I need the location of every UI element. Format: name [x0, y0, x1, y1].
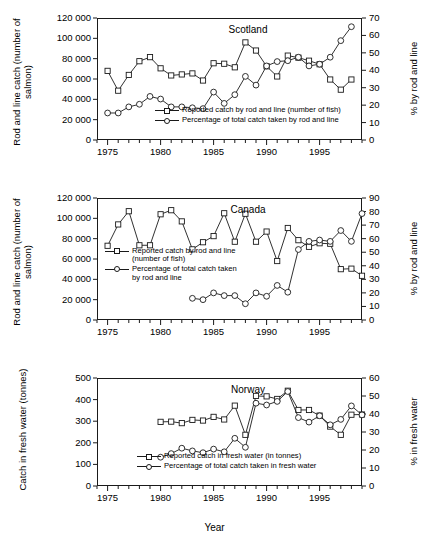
data-point	[126, 72, 131, 77]
data-point	[306, 419, 312, 425]
data-point	[190, 417, 195, 422]
data-point	[264, 63, 270, 69]
data-point	[137, 101, 143, 107]
ytick-right: 40	[369, 64, 399, 75]
legend-label: Reported catch by rod and line (number o…	[182, 106, 341, 115]
xtick-label: 1995	[300, 326, 340, 337]
ytick-left: 120 000	[31, 192, 91, 203]
data-point	[158, 66, 163, 71]
ytick-left: 100 000	[31, 32, 91, 43]
data-point	[190, 71, 195, 76]
data-point	[211, 234, 216, 239]
data-point	[179, 421, 184, 426]
data-point	[105, 68, 110, 73]
data-point	[306, 244, 311, 249]
ytick-right: 40	[369, 260, 399, 271]
data-point	[338, 267, 343, 272]
ytick-right: 10	[369, 300, 399, 311]
y-axis-label-left: Rod and line catch (number of salmon)	[11, 181, 33, 343]
legend: Reported catch in fresh water (in tonnes…	[137, 452, 316, 472]
legend-label: Reported catch in fresh water (in tonnes…	[164, 452, 301, 461]
data-point	[306, 407, 311, 412]
xtick-label: 1975	[88, 492, 128, 503]
xtick-label: 1990	[247, 146, 287, 157]
ytick-right: 50	[369, 390, 399, 401]
data-point	[317, 413, 323, 419]
legend-item: Percentage of total catch takenby rod an…	[105, 265, 237, 282]
data-point	[253, 48, 258, 53]
data-point	[147, 94, 153, 100]
data-point	[338, 417, 344, 423]
data-point	[349, 24, 355, 30]
data-point	[296, 415, 302, 421]
data-point	[158, 419, 163, 424]
panel-title: Norway	[203, 384, 293, 395]
ytick-right: 50	[369, 246, 399, 257]
data-point	[243, 73, 249, 79]
data-point	[147, 55, 152, 60]
panel-title: Canada	[203, 204, 293, 215]
data-point	[253, 239, 258, 244]
data-point	[253, 82, 259, 88]
data-point	[232, 239, 237, 244]
data-point	[274, 399, 280, 405]
legend-key-square-icon	[137, 452, 161, 461]
data-point	[306, 58, 311, 63]
ytick-left: 20 000	[31, 294, 91, 305]
ytick-left: 20 000	[31, 114, 91, 125]
plot-graphics	[0, 198, 429, 380]
ytick-right: 10	[369, 462, 399, 473]
panel-scotland: 020 00040 00060 00080 000100 000120 0000…	[0, 18, 429, 200]
data-point	[349, 412, 354, 417]
series-line-percentage	[108, 27, 352, 113]
ytick-right: 20	[369, 287, 399, 298]
data-point	[327, 238, 333, 244]
panel-norway: 0100200300400500010203040506019751980198…	[0, 378, 429, 546]
data-point	[296, 407, 301, 412]
ytick-left: 120 000	[31, 12, 91, 23]
data-point	[232, 65, 237, 70]
data-point	[158, 96, 164, 102]
ytick-right: 30	[369, 273, 399, 284]
ytick-left: 0	[31, 314, 91, 325]
x-axis-title: Year	[0, 522, 429, 533]
xtick-label: 1990	[247, 326, 287, 337]
data-point	[200, 418, 205, 423]
legend-label: Percentage of total catch taken in fresh…	[164, 462, 316, 471]
legend-label-line: by rod and line	[132, 274, 237, 283]
data-point	[359, 211, 365, 217]
data-point	[232, 293, 238, 299]
data-point	[221, 293, 227, 299]
ytick-right: 30	[369, 426, 399, 437]
y-axis-label-left: Catch in fresh water (tonnes)	[17, 356, 28, 504]
data-point	[232, 92, 238, 98]
xtick-label: 1985	[194, 146, 234, 157]
data-point	[338, 228, 344, 234]
data-point	[285, 58, 291, 64]
data-point	[264, 229, 269, 234]
xtick-label: 1995	[300, 146, 340, 157]
panel-canada: 020 00040 00060 00080 000100 000120 0000…	[0, 198, 429, 380]
data-point	[275, 258, 280, 263]
legend-key-marker	[164, 108, 170, 114]
series-line-catch	[108, 42, 352, 90]
ytick-right: 10	[369, 117, 399, 128]
data-point	[327, 422, 333, 428]
data-point	[296, 54, 302, 60]
data-point	[243, 301, 249, 307]
data-point	[338, 38, 344, 44]
legend-key-square-icon	[105, 247, 129, 256]
data-point	[338, 87, 343, 92]
data-point	[200, 78, 205, 83]
data-point	[169, 208, 174, 213]
data-point	[285, 289, 291, 295]
data-point	[296, 247, 302, 253]
data-point	[338, 432, 343, 437]
data-point	[243, 432, 248, 437]
ytick-left: 500	[31, 372, 91, 383]
figure-salmon-catch-panels: 020 00040 00060 00080 000100 000120 0000…	[0, 0, 429, 546]
data-point	[211, 414, 216, 419]
data-point	[349, 77, 354, 82]
data-point	[349, 403, 355, 409]
data-point	[200, 297, 206, 303]
